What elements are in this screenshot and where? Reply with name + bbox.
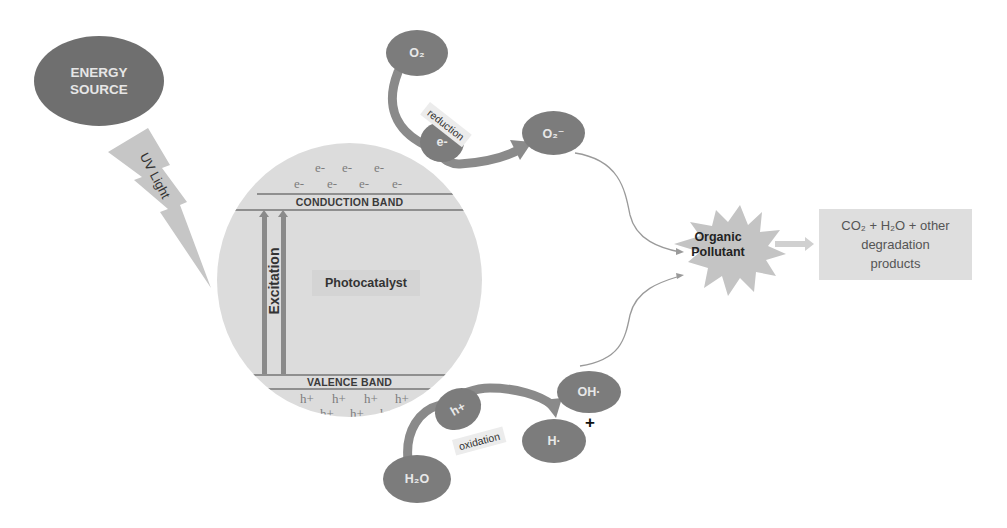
arrow-to-products-shaft <box>775 241 805 247</box>
photocatalyst-label: Photocatalyst <box>325 276 407 290</box>
degradation-products-box: CO₂ + H₂O + other degradation products <box>819 209 972 280</box>
hole: h+ <box>395 391 409 407</box>
photocatalyst-label-box: Photocatalyst <box>312 270 420 296</box>
electron: e- <box>374 160 384 176</box>
hydroxyl-radical: OH· <box>557 371 621 413</box>
hole: h+ <box>364 391 378 407</box>
hole: h+ <box>380 406 394 417</box>
pollutant-line2: Pollutant <box>668 245 768 260</box>
plus-symbol: + <box>585 413 595 433</box>
electron: e- <box>342 160 352 176</box>
excitation-arrowhead-right <box>278 210 288 217</box>
electron: e- <box>327 176 337 192</box>
electron: e- <box>392 176 402 192</box>
products-line1: CO₂ + H₂O + other <box>841 216 949 235</box>
conduction-band-bottom-line <box>217 209 482 211</box>
valence-band-bottom-line <box>237 388 457 390</box>
superoxide-molecule: O₂⁻ <box>522 111 585 155</box>
photocatalyst-circle: e- e- e- e- e- e- e- CONDUCTION BAND Exc… <box>217 143 482 417</box>
pollutant-line1: Organic <box>668 230 768 245</box>
organic-pollutant-label: Organic Pollutant <box>668 230 768 260</box>
hole: h+ <box>350 406 364 417</box>
connector-arrowhead-bottom <box>676 273 684 279</box>
energy-source-ellipse: ENERGY SOURCE <box>34 36 164 126</box>
valence-band-label: VALENCE BAND <box>217 376 482 388</box>
arrow-to-products-head <box>805 237 814 251</box>
hydrogen-label: H· <box>547 434 560 448</box>
hole: h+ <box>320 406 334 417</box>
electron: e- <box>294 176 304 192</box>
connector-superoxide-to-pollutant <box>575 153 680 252</box>
energy-source-line1: ENERGY <box>70 64 127 81</box>
electron: e- <box>315 160 325 176</box>
conduction-band-label: CONDUCTION BAND <box>217 196 482 208</box>
uv-lightning-bolt <box>108 128 211 288</box>
oxidation-arrowhead <box>542 398 562 418</box>
hole-ball-label: h+ <box>448 399 468 419</box>
excitation-arrowhead-left <box>259 210 269 217</box>
hole: h+ <box>332 391 346 407</box>
energy-source-line2: SOURCE <box>70 81 128 98</box>
hydroxyl-label: OH· <box>578 385 601 399</box>
h2o-molecule: H₂O <box>383 455 451 503</box>
products-line3: products <box>871 254 921 273</box>
h2o-label: H₂O <box>405 472 429 486</box>
hole: h+ <box>300 391 314 407</box>
o2-label: O₂ <box>409 46 424 60</box>
connector-hydroxyl-to-pollutant <box>580 276 680 366</box>
conduction-band-top-line <box>257 193 467 195</box>
products-line2: degradation <box>861 235 930 254</box>
superoxide-label: O₂⁻ <box>543 126 565 141</box>
excitation-label: Excitation <box>266 241 282 321</box>
electron: e- <box>359 176 369 192</box>
hydrogen-radical: H· <box>522 419 586 463</box>
o2-molecule: O₂ <box>386 30 448 76</box>
electron-ball-label: e- <box>436 135 447 149</box>
